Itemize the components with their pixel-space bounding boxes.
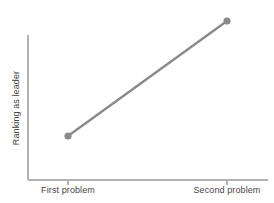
x-tick-label-first-problem: First problem xyxy=(0,185,136,195)
data-point-marker-second-problem xyxy=(223,17,230,24)
chart-figure: First problem Second problem Ranking as … xyxy=(0,0,274,203)
y-axis-title: Ranking as leader xyxy=(11,58,21,158)
data-point-marker-first-problem xyxy=(64,132,71,139)
x-tick-label-second-problem: Second problem xyxy=(159,185,274,195)
data-line-segment xyxy=(68,21,227,136)
chart-plot-area xyxy=(0,0,274,203)
